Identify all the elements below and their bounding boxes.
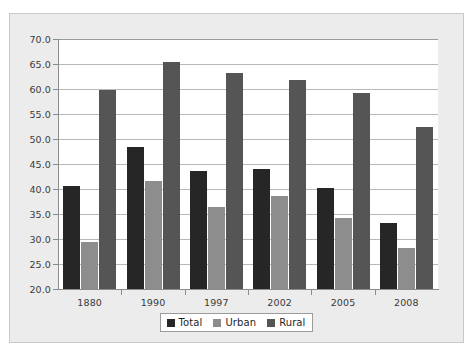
y-axis-tick — [53, 114, 58, 115]
bar-urban-1997 — [208, 207, 225, 290]
x-axis-tick — [375, 290, 376, 295]
bar-total-2008 — [380, 223, 397, 290]
x-axis-tick — [248, 290, 249, 295]
bar-urban-2002 — [271, 196, 288, 289]
y-axis-label: 30.0 — [29, 234, 51, 245]
x-axis-label-2002: 2002 — [267, 297, 292, 308]
legend-swatch-icon — [267, 319, 275, 327]
y-axis-label: 20.0 — [29, 284, 51, 295]
bar-total-2002 — [253, 169, 270, 289]
legend-item-urban[interactable]: Urban — [213, 317, 256, 328]
y-axis-label: 25.0 — [29, 259, 51, 270]
y-axis-tick — [53, 289, 58, 290]
bar-rural-1990 — [163, 62, 180, 290]
bar-rural-2005 — [353, 93, 370, 289]
bar-total-1997 — [190, 171, 207, 289]
chart-legend: TotalUrbanRural — [160, 313, 314, 332]
gridline — [58, 39, 438, 40]
bar-total-1990 — [127, 147, 144, 290]
bar-urban-1880 — [81, 242, 98, 290]
y-axis-label: 60.0 — [29, 84, 51, 95]
x-axis-label-2005: 2005 — [331, 297, 356, 308]
x-axis-label-1880: 1880 — [77, 297, 102, 308]
legend-label: Urban — [225, 317, 256, 328]
bar-rural-1880 — [99, 90, 116, 289]
y-axis-tick — [53, 189, 58, 190]
x-axis-tick — [121, 290, 122, 295]
y-axis-tick — [53, 264, 58, 265]
legend-item-rural[interactable]: Rural — [267, 317, 305, 328]
y-axis-label: 55.0 — [29, 109, 51, 120]
x-axis-label-1997: 1997 — [204, 297, 229, 308]
bar-urban-2008 — [398, 248, 415, 289]
y-axis-label: 40.0 — [29, 184, 51, 195]
y-axis-label: 70.0 — [29, 34, 51, 45]
bar-rural-1997 — [226, 73, 243, 289]
legend-swatch-icon — [167, 319, 175, 327]
legend-swatch-icon — [213, 319, 221, 327]
gridline — [58, 64, 438, 65]
chart-frame: 20.025.030.035.040.045.050.055.060.065.0… — [9, 13, 464, 343]
y-axis-tick — [53, 139, 58, 140]
bar-total-2005 — [317, 188, 334, 289]
y-axis-label: 65.0 — [29, 59, 51, 70]
y-axis-tick — [53, 214, 58, 215]
bar-urban-2005 — [335, 218, 352, 290]
legend-label: Total — [179, 317, 203, 328]
legend-item-total[interactable]: Total — [167, 317, 203, 328]
y-axis-tick — [53, 239, 58, 240]
y-axis-line — [58, 39, 59, 290]
bar-total-1880 — [63, 186, 80, 290]
y-axis-label: 35.0 — [29, 209, 51, 220]
y-axis-tick — [53, 89, 58, 90]
plot-area — [58, 39, 438, 289]
y-axis-tick — [53, 39, 58, 40]
y-axis-label: 45.0 — [29, 159, 51, 170]
y-axis-tick — [53, 64, 58, 65]
x-axis-tick — [311, 290, 312, 295]
x-axis-label-1990: 1990 — [141, 297, 166, 308]
bar-rural-2002 — [289, 80, 306, 290]
bar-rural-2008 — [416, 127, 433, 290]
x-axis-label-2008: 2008 — [394, 297, 419, 308]
y-axis-label: 50.0 — [29, 134, 51, 145]
bar-urban-1990 — [145, 181, 162, 289]
x-axis-tick — [185, 290, 186, 295]
legend-label: Rural — [279, 317, 305, 328]
y-axis-tick — [53, 164, 58, 165]
